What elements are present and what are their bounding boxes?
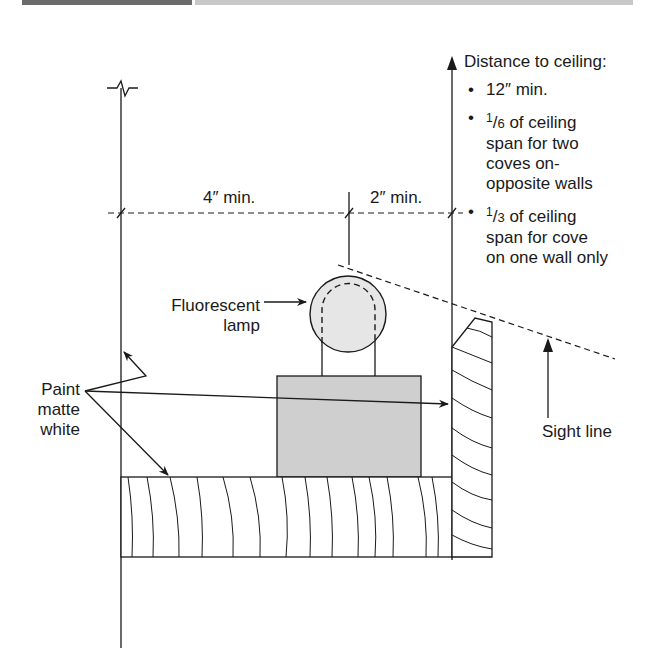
fluorescent-lamp [310, 276, 386, 376]
ballast-box [277, 376, 421, 477]
cove-fascia [452, 318, 492, 557]
left-wall-line [107, 81, 138, 648]
dimension-4in-label: 4″ min. [203, 188, 255, 208]
notes-heading: Distance to ceiling: [464, 52, 608, 72]
paint-label-line2: matte [28, 400, 80, 420]
lamp-label: Fluorescent lamp [150, 296, 260, 336]
notes-list: 12″ min. 1/6 of ceiling span for two cov… [464, 80, 608, 268]
lamp-label-line2: lamp [150, 316, 260, 336]
note-item: 12″ min. [464, 80, 608, 100]
lamp-label-line1: Fluorescent [150, 296, 260, 316]
paint-label-line3: white [28, 420, 80, 440]
note-item: 1/6 of ceiling span for two coves on- op… [464, 108, 608, 194]
paint-label-line1: Paint [28, 380, 80, 400]
cove-shelf [121, 477, 452, 557]
paint-label: Paint matte white [28, 380, 80, 440]
ceiling-distance-notes: Distance to ceiling: 12″ min. 1/6 of cei… [464, 52, 608, 276]
note-item: 1/3 of ceiling span for cove on one wall… [464, 202, 608, 268]
dimension-2in-label: 2″ min. [370, 188, 422, 208]
sight-line-label: Sight line [542, 422, 612, 442]
